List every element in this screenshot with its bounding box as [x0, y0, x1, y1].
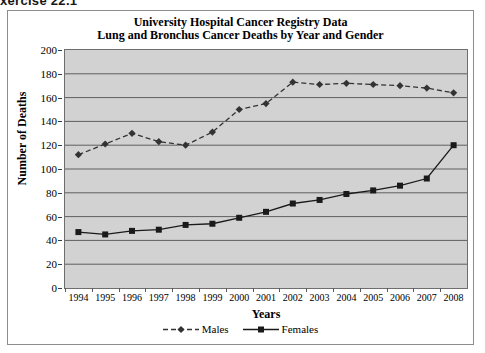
- legend-swatch-diamond-icon: [163, 324, 199, 335]
- legend-swatch-square-icon: [243, 324, 279, 335]
- x-tick-label: 1997: [149, 292, 169, 303]
- data-point-males-1996: [128, 130, 135, 137]
- legend-item-males[interactable]: Males: [163, 323, 229, 335]
- x-tick-label: 1998: [176, 292, 196, 303]
- series-line-males: [78, 82, 453, 155]
- data-point-males-2000: [236, 106, 243, 113]
- y-tick-label: 180: [41, 68, 58, 80]
- x-tick-label: 1994: [68, 292, 88, 303]
- x-tick-label: 2004: [336, 292, 356, 303]
- x-tick-label: 2008: [444, 292, 464, 303]
- y-tick-mark: [58, 50, 62, 51]
- x-tick-mark: [306, 288, 307, 292]
- data-point-females-2001: [263, 209, 269, 215]
- data-point-males-1997: [155, 138, 162, 145]
- data-point-females-1994: [75, 229, 81, 235]
- y-tick-label: 40: [46, 234, 57, 246]
- x-tick-label: 1999: [202, 292, 222, 303]
- data-point-females-2000: [236, 215, 242, 221]
- data-point-females-2008: [451, 142, 457, 148]
- x-tick-label: 1996: [122, 292, 142, 303]
- data-point-females-1997: [156, 227, 162, 233]
- data-point-females-2005: [370, 187, 376, 193]
- data-point-males-2008: [450, 89, 457, 96]
- data-point-females-1999: [209, 221, 215, 227]
- x-tick-label: 2006: [390, 292, 410, 303]
- y-tick-mark: [58, 98, 62, 99]
- y-tick-mark: [58, 264, 62, 265]
- chart-title: University Hospital Cancer Registry Data…: [8, 16, 473, 42]
- data-series-layer: [65, 50, 467, 288]
- y-axis-tick-labels: 020406080100120140160180200: [22, 49, 62, 289]
- data-point-males-1995: [102, 140, 109, 147]
- y-tick-mark: [58, 217, 62, 218]
- clipped-caption-text: xercise 22.1: [0, 0, 120, 7]
- x-tick-label: 2003: [310, 292, 330, 303]
- x-tick-label: 1995: [95, 292, 115, 303]
- x-tick-label: 2005: [363, 292, 383, 303]
- x-tick-mark: [65, 288, 66, 292]
- plot-area: [64, 49, 468, 289]
- y-tick-mark: [58, 240, 62, 241]
- data-point-females-1996: [129, 228, 135, 234]
- x-tick-mark: [145, 288, 146, 292]
- data-point-females-2004: [343, 191, 349, 197]
- x-tick-label: 2007: [417, 292, 437, 303]
- data-point-females-2002: [290, 201, 296, 207]
- data-point-females-2003: [317, 197, 323, 203]
- chart-figure: University Hospital Cancer Registry Data…: [7, 10, 474, 345]
- x-tick-mark: [279, 288, 280, 292]
- y-tick-label: 20: [46, 258, 57, 270]
- data-point-males-2005: [370, 81, 377, 88]
- x-tick-mark: [253, 288, 254, 292]
- x-tick-mark: [92, 288, 93, 292]
- y-tick-mark: [58, 169, 62, 170]
- data-point-males-1994: [75, 151, 82, 158]
- legend-item-females[interactable]: Females: [243, 323, 319, 335]
- x-tick-label: 2002: [283, 292, 303, 303]
- x-tick-mark: [199, 288, 200, 292]
- y-tick-label: 200: [41, 44, 58, 56]
- x-axis-tick-labels: 1994199519961997199819992000200120022003…: [64, 292, 468, 308]
- data-point-females-2006: [397, 183, 403, 189]
- y-tick-label: 100: [41, 163, 58, 175]
- x-tick-mark: [119, 288, 120, 292]
- data-point-males-2007: [423, 84, 430, 91]
- x-tick-mark: [413, 288, 414, 292]
- y-tick-label: 60: [46, 211, 57, 223]
- y-tick-mark: [58, 145, 62, 146]
- x-tick-mark: [387, 288, 388, 292]
- data-point-males-2004: [343, 80, 350, 87]
- y-tick-mark: [58, 193, 62, 194]
- x-tick-label: 2001: [256, 292, 276, 303]
- x-axis-title: Years: [64, 307, 468, 322]
- data-point-females-1995: [102, 231, 108, 237]
- legend-label: Females: [282, 323, 319, 335]
- series-line-females: [78, 145, 453, 234]
- x-tick-mark: [333, 288, 334, 292]
- data-point-males-2006: [396, 82, 403, 89]
- data-point-females-2007: [424, 176, 430, 182]
- y-tick-label: 0: [52, 282, 58, 294]
- y-tick-mark: [58, 74, 62, 75]
- x-tick-mark: [440, 288, 441, 292]
- data-point-females-1998: [183, 222, 189, 228]
- y-tick-mark: [58, 121, 62, 122]
- y-tick-label: 160: [41, 92, 58, 104]
- data-point-males-2003: [316, 81, 323, 88]
- x-tick-mark: [360, 288, 361, 292]
- chart-legend: MalesFemales: [8, 323, 473, 335]
- legend-label: Males: [202, 323, 229, 335]
- x-tick-mark: [226, 288, 227, 292]
- x-tick-label: 2000: [229, 292, 249, 303]
- y-tick-label: 120: [41, 139, 58, 151]
- chart-title-line-2: Lung and Bronchus Cancer Deaths by Year …: [8, 29, 473, 42]
- data-point-males-1998: [182, 142, 189, 149]
- y-tick-label: 80: [46, 187, 57, 199]
- x-tick-mark: [172, 288, 173, 292]
- y-tick-label: 140: [41, 115, 58, 127]
- y-tick-mark: [58, 288, 62, 289]
